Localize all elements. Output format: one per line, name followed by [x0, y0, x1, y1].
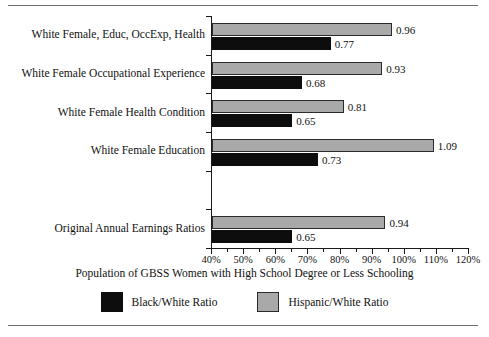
bar-black-white-ratio: [212, 230, 292, 243]
bar-black-white-ratio: [212, 37, 331, 50]
y-axis-tick: [206, 16, 212, 17]
bar-value-label: 0.77: [335, 38, 354, 50]
bar-value-label: 0.65: [296, 115, 315, 127]
x-axis-tick-label: 50%: [226, 254, 260, 266]
x-axis-tick-label: 120%: [451, 254, 485, 266]
bar-value-label: 0.96: [396, 24, 415, 36]
bar-hispanic-white-ratio: [212, 62, 382, 75]
bar-hispanic-white-ratio: [212, 100, 344, 113]
bar-value-label: 0.93: [386, 63, 405, 75]
x-axis-minor-tick: [420, 248, 421, 252]
y-axis-tick: [206, 209, 212, 210]
x-axis-title: Population of GBSS Women with High Schoo…: [0, 266, 489, 280]
legend-label-hispanic-white-ratio: Hispanic/White Ratio: [288, 296, 388, 309]
x-axis-minor-tick: [356, 248, 357, 252]
plot-area: 40%50%60%70%80%90%100%110%120%0.960.770.…: [211, 16, 468, 248]
x-axis-minor-tick: [323, 248, 324, 252]
figure: White Female, Educ, OccExp, HealthWhite …: [0, 0, 489, 337]
category-label: White Female, Educ, OccExp, Health: [32, 28, 205, 41]
x-axis-tick-label: 70%: [290, 254, 324, 266]
bar-value-label: 0.65: [296, 231, 315, 243]
x-axis-minor-tick: [388, 248, 389, 252]
y-axis-tick: [206, 93, 212, 94]
x-axis-minor-tick: [291, 248, 292, 252]
y-axis-tick: [206, 132, 212, 133]
bar-hispanic-white-ratio: [212, 23, 392, 36]
category-label: White Female Occupational Experience: [21, 67, 205, 80]
chart-legend: Black/White Ratio Hispanic/White Ratio: [0, 292, 489, 312]
bar-value-label: 0.73: [322, 154, 341, 166]
bar-black-white-ratio: [212, 114, 292, 127]
category-label: White Female Education: [91, 144, 205, 157]
bar-hispanic-white-ratio: [212, 139, 434, 152]
category-label: White Female Health Condition: [58, 106, 205, 119]
x-axis-minor-tick: [452, 248, 453, 252]
bar-value-label: 0.81: [348, 101, 367, 113]
bar-black-white-ratio: [212, 76, 302, 89]
x-axis-tick-label: 40%: [194, 254, 228, 266]
legend-label-black-white-ratio: Black/White Ratio: [132, 296, 218, 309]
x-axis-tick-label: 100%: [387, 254, 421, 266]
bar-value-label: 0.94: [389, 217, 408, 229]
y-axis-tick: [206, 171, 212, 172]
bar-hispanic-white-ratio: [212, 216, 385, 229]
bar-black-white-ratio: [212, 153, 318, 166]
x-axis-tick-label: 60%: [258, 254, 292, 266]
legend-item-hispanic-white-ratio: Hispanic/White Ratio: [257, 292, 388, 312]
bar-value-label: 1.09: [438, 140, 457, 152]
bar-value-label: 0.68: [306, 77, 325, 89]
category-label: Original Annual Earnings Ratios: [55, 222, 205, 235]
y-axis-tick: [206, 248, 212, 249]
legend-swatch-icon-gray: [257, 292, 279, 312]
x-axis-minor-tick: [259, 248, 260, 252]
x-axis-tick-label: 110%: [419, 254, 453, 266]
y-axis-tick: [206, 55, 212, 56]
x-axis-tick-label: 80%: [323, 254, 357, 266]
legend-swatch-icon-black: [101, 292, 123, 312]
x-axis-tick-label: 90%: [355, 254, 389, 266]
x-axis-minor-tick: [227, 248, 228, 252]
legend-item-black-white-ratio: Black/White Ratio: [101, 292, 218, 312]
